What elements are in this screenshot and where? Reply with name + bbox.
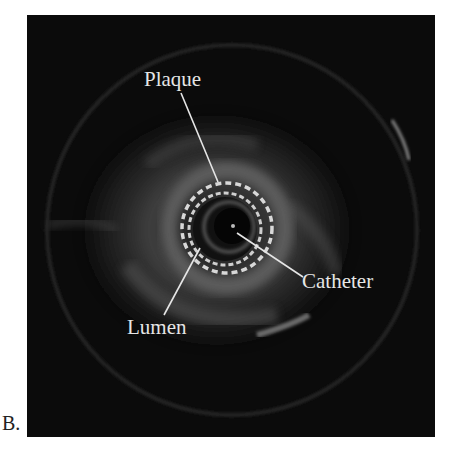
plaque-label: Plaque (144, 67, 201, 92)
ivus-image: Plaque Catheter Lumen (27, 15, 435, 437)
ivus-scan-graphic (27, 15, 435, 437)
lumen-label: Lumen (127, 315, 186, 340)
catheter-label: Catheter (302, 269, 373, 294)
catheter-dot (231, 224, 235, 228)
panel-label: B. (2, 412, 20, 435)
